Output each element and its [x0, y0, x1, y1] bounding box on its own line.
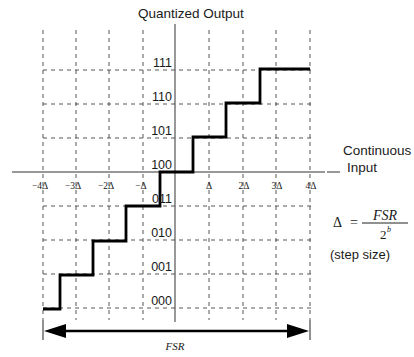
quantizer-diagram: Quantized Output Continuous Input −4Δ −3… [0, 0, 414, 357]
output-code-label: 110 [152, 90, 172, 104]
output-code-label: 001 [151, 260, 172, 274]
formula-caption: (step size) [330, 247, 390, 262]
step-size-formula: Δ = FSR 2 b (step size) [330, 208, 408, 262]
output-code-label: 101 [151, 124, 172, 138]
quantizer-staircase [43, 69, 310, 309]
output-code-label: 011 [152, 192, 172, 206]
formula-delta: Δ [333, 215, 342, 230]
output-code-label: 000 [151, 294, 172, 308]
x-tick-label: 3Δ [272, 181, 283, 191]
x-tick-label: 2Δ [239, 181, 250, 191]
x-tick-labels: −4Δ −3Δ −2Δ −Δ Δ 2Δ 3Δ 4Δ [32, 181, 317, 191]
x-tick-label: −3Δ [65, 181, 81, 191]
output-code-label: 010 [151, 226, 172, 240]
arrowhead-left-icon [44, 324, 66, 338]
x-axis-title-line2: Input [347, 160, 377, 175]
output-code-label: 100 [151, 158, 172, 172]
x-tick-label: −2Δ [98, 181, 114, 191]
x-tick-label: 4Δ [306, 181, 317, 191]
output-code-labels: 111 110 101 100 011 010 001 000 [151, 56, 172, 308]
y-axis-title: Quantized Output [138, 6, 244, 21]
vertical-grid-lines [43, 30, 310, 320]
x-tick-label: Δ [206, 181, 212, 191]
fsr-label: FSR [165, 340, 185, 352]
fsr-range-arrow: FSR [43, 320, 310, 352]
x-tick-label: −Δ [135, 181, 146, 191]
x-axis-title-line1: Continuous [343, 143, 412, 158]
formula-denominator-exponent: b [387, 225, 391, 234]
formula-numerator: FSR [372, 208, 398, 223]
formula-denominator-base: 2 [380, 227, 387, 242]
arrowhead-right-icon [287, 324, 309, 338]
output-code-label: 111 [153, 56, 172, 70]
x-tick-label: −4Δ [32, 181, 48, 191]
formula-equals: = [350, 215, 358, 230]
